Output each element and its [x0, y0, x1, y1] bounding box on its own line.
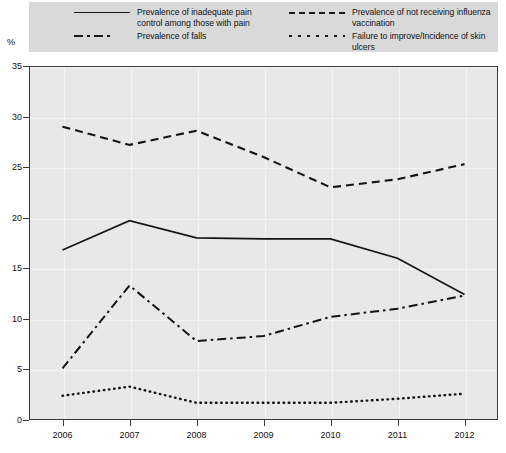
y-axis-tick-label: 5 — [0, 364, 22, 374]
y-axis-tick — [23, 117, 29, 118]
legend-line-solid-icon — [74, 7, 130, 19]
x-axis-tick — [130, 420, 131, 426]
y-axis-tick — [23, 218, 29, 219]
x-axis-tick-label: 2010 — [311, 430, 351, 440]
legend-entry-falls: Prevalence of falls — [74, 31, 206, 43]
x-axis-tick-label: 2012 — [445, 430, 485, 440]
gridline-vertical — [265, 67, 266, 419]
gridline-vertical — [399, 67, 400, 419]
x-axis-tick — [465, 420, 466, 426]
gridline-horizontal — [30, 269, 497, 270]
legend-label-ulcers: Failure to improve/Incidence of skin ulc… — [352, 31, 498, 54]
legend-label-influenza: Prevalence of not receiving influenza va… — [352, 7, 491, 30]
y-axis-tick — [23, 369, 29, 370]
y-axis-tick — [23, 268, 29, 269]
gridline-horizontal — [30, 118, 497, 119]
y-axis-tick-label: 10 — [0, 314, 22, 324]
y-axis-tick-label: 25 — [0, 162, 22, 172]
y-axis-tick-label: 15 — [0, 263, 22, 273]
gridline-vertical — [131, 67, 132, 419]
y-axis-tick-label: 35 — [0, 61, 22, 71]
gridline-horizontal — [30, 67, 497, 68]
gridline-horizontal — [30, 370, 497, 371]
gridline-vertical — [198, 67, 199, 419]
y-axis-tick — [23, 167, 29, 168]
gridline-horizontal — [30, 168, 497, 169]
legend-entry-influenza: Prevalence of not receiving influenza va… — [289, 7, 491, 30]
legend-label-pain: Prevalence of inadequate pain control am… — [137, 7, 252, 30]
y-axis-tick — [23, 420, 29, 421]
y-axis-tick — [23, 319, 29, 320]
x-axis-tick — [63, 420, 64, 426]
gridline-vertical — [466, 67, 467, 419]
legend-line-dotted-icon — [289, 31, 345, 43]
x-axis-tick — [197, 420, 198, 426]
legend-label-falls: Prevalence of falls — [137, 31, 206, 42]
x-axis-tick-label: 2008 — [177, 430, 217, 440]
legend-line-dashdot-icon — [74, 31, 130, 43]
y-axis-tick-label: 0 — [0, 415, 22, 425]
plot-area — [29, 66, 498, 420]
x-axis-tick-label: 2006 — [43, 430, 83, 440]
legend-line-dashed-icon — [289, 7, 345, 19]
y-axis-tick — [23, 66, 29, 67]
legend-entry-ulcers: Failure to improve/Incidence of skin ulc… — [289, 31, 498, 54]
gridline-horizontal — [30, 320, 497, 321]
legend-entry-pain: Prevalence of inadequate pain control am… — [74, 7, 252, 30]
gridline-vertical — [64, 67, 65, 419]
x-axis-tick — [331, 420, 332, 426]
x-axis-tick — [398, 420, 399, 426]
y-axis-tick-label: 30 — [0, 112, 22, 122]
chart-legend: Prevalence of inadequate pain control am… — [29, 2, 498, 52]
gridline-vertical — [332, 67, 333, 419]
plot-grid — [30, 67, 497, 419]
x-axis-tick-label: 2009 — [244, 430, 284, 440]
gridline-horizontal — [30, 219, 497, 220]
x-axis-tick — [264, 420, 265, 426]
y-axis-tick-label: 20 — [0, 213, 22, 223]
x-axis-tick-label: 2011 — [378, 430, 418, 440]
y-axis-unit-label: % — [7, 37, 15, 47]
x-axis-tick-label: 2007 — [110, 430, 150, 440]
